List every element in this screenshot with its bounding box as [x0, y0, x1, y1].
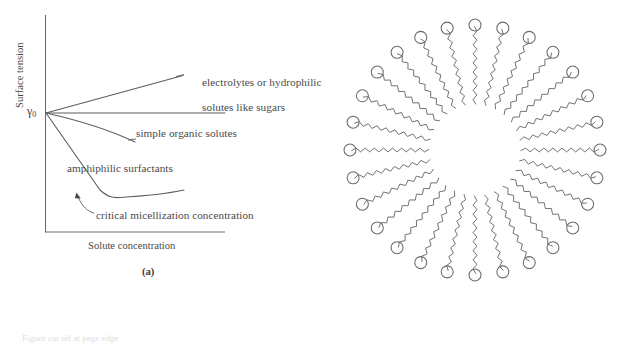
surfactant-tail [503, 186, 552, 246]
surfactant-tail [520, 122, 595, 141]
surfactant-head-group [347, 172, 359, 184]
surfactant-head-group [441, 22, 453, 34]
surfactant-head-group [391, 242, 403, 254]
curve-amphiphilic-surfactants [46, 113, 184, 198]
micelle-diagram-svg [320, 0, 623, 300]
surfactant-head-group [567, 222, 579, 234]
curve-simple-organic [46, 113, 135, 142]
surfactant-tail [485, 195, 504, 270]
annotation-simple-organic-solutes: simple organic solutes [136, 127, 237, 140]
surfactant-head-group [415, 31, 427, 43]
surfactant-head-group [591, 116, 603, 128]
annotation-amphiphilic-surfactants: amphiphilic surfactants [67, 162, 173, 175]
surfactant-tail [364, 169, 433, 204]
annotation-electrolytes-line2: solutes like sugars [202, 101, 285, 113]
surfactant-tail [352, 148, 430, 152]
surfactant-tail [379, 178, 439, 227]
page-bottom-bleed-text: Figure cut off at page edge [22, 333, 222, 343]
surfactant-head-group [582, 90, 594, 102]
surfactant-tail [422, 191, 455, 261]
surfactant-head-group [344, 144, 356, 156]
surfactant-tail [355, 160, 430, 179]
surfactant-head-group [523, 257, 535, 269]
annotation-electrolytes: electrolytes or hydrophilic solutes like… [185, 63, 322, 126]
surfactant-tail [397, 54, 446, 114]
surfactant-tail [473, 27, 477, 105]
surfactant-tail [494, 192, 529, 261]
surfactant-head-group [547, 242, 559, 254]
surfactant-tail [521, 148, 599, 152]
curve-electrolytes [46, 76, 183, 114]
surfactant-head-group [523, 31, 535, 43]
surfactant-head-group [356, 198, 368, 210]
panel-b-micelle-diagram: (b) [320, 0, 623, 330]
surfactant-tail [484, 29, 503, 105]
surfactant-head-group [582, 198, 594, 210]
surfactant-head-group [356, 90, 368, 102]
y-axis-title: Surface tension [14, 0, 25, 108]
cmc-arrow-head [75, 193, 81, 199]
surfactant-tail [363, 97, 433, 130]
micelle-surfactant-group [344, 19, 606, 281]
surfactant-tail [511, 72, 571, 121]
surfactant-head-group [547, 46, 559, 58]
surfactant-tail [495, 38, 528, 108]
surfactant-tail [421, 39, 456, 108]
surface-tension-chart-svg [0, 0, 320, 300]
surfactant-tail [517, 96, 586, 131]
surfactant-head-group [371, 66, 383, 78]
panel-a-caption: (a) [142, 266, 154, 277]
surfactant-tail [447, 30, 466, 105]
surfactant-head-group [415, 257, 427, 269]
gamma-subscript: 0 [32, 110, 36, 119]
annotation-critical-micellization-concentration: critical micellization concentration [96, 209, 254, 222]
surfactant-head-group [469, 19, 481, 31]
surfactant-head-group [391, 46, 403, 58]
surfactant-head-group [469, 269, 481, 281]
surfactant-head-group [567, 66, 579, 78]
surfactant-tail [516, 170, 586, 203]
panel-a-surface-tension-plot: Surface tension Solute concentration γ0 … [0, 0, 320, 300]
cmc-arrow-shaft [78, 197, 94, 213]
x-axis-title: Solute concentration [88, 240, 175, 251]
surfactant-head-group [371, 222, 383, 234]
surfactant-head-group [497, 266, 509, 278]
surfactant-tail [447, 195, 466, 271]
annotation-electrolytes-line1: electrolytes or hydrophilic [202, 76, 321, 88]
gamma-zero-axis-marker: γ0 [27, 104, 36, 119]
surfactant-tail [473, 196, 477, 274]
surfactant-tail [354, 122, 430, 141]
surfactant-head-group [594, 144, 606, 156]
surfactant-tail [520, 159, 596, 178]
figure-root: Surface tension Solute concentration γ0 … [0, 0, 623, 344]
